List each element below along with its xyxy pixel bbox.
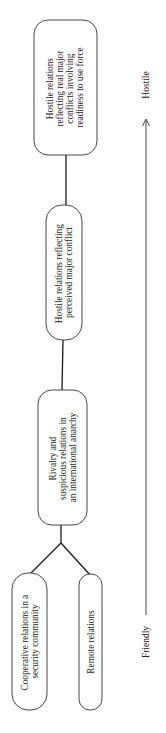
svg-text:Cooperative relations in a: Cooperative relations in a security comm… xyxy=(20,592,40,690)
edge-rivalry-to-cooperative xyxy=(31,543,61,573)
edge-perceived-to-rivalry xyxy=(62,340,63,390)
node-rivalry-line-3: an international anarchy xyxy=(68,412,78,502)
node-hostile-real: Hostile relations reflecting real major … xyxy=(34,20,97,155)
node-remote-line-1: Remote relations xyxy=(86,610,96,674)
friendly-hostile-axis: Hostile Friendly xyxy=(141,71,151,658)
node-cooperative: Cooperative relations in a security comm… xyxy=(12,573,47,710)
axis-label-hostile: Hostile xyxy=(141,71,151,98)
axis-label-friendly: Friendly xyxy=(141,626,151,658)
node-hostile-perceived-line-1: Hostile relations reflecting xyxy=(54,224,64,323)
node-cooperative-line-2: security community xyxy=(30,604,40,678)
node-rivalry: Rivalry and suspicious relations in an i… xyxy=(38,390,87,525)
node-hostile-real-line-3: conflicts involving xyxy=(65,53,75,123)
svg-text:Remote relations: Remote relations xyxy=(86,610,96,674)
node-rivalry-line-1: Rivalry and xyxy=(48,436,58,480)
svg-text:Hostile relations reflecting: Hostile relations reflecting perceived m… xyxy=(54,222,74,323)
node-hostile-real-line-4: readiness to use force xyxy=(75,47,85,127)
node-cooperative-line-1: Cooperative relations in a xyxy=(20,595,30,691)
node-hostile-real-line-2: reflecting real major xyxy=(55,50,65,127)
relations-spectrum-diagram: Hostile relations reflecting real major … xyxy=(0,0,166,733)
node-hostile-perceived-line-2: perceived major conflict xyxy=(64,227,74,318)
node-hostile-perceived: Hostile relations reflecting perceived m… xyxy=(46,205,82,340)
node-rivalry-line-2: suspicious relations in xyxy=(58,417,68,500)
node-hostile-real-line-1: Hostile relations xyxy=(45,58,55,120)
svg-text:Hostile relations reflec: Hostile relations reflecting real major … xyxy=(45,47,85,127)
edge-rivalry-to-remote xyxy=(61,543,91,576)
node-remote: Remote relations xyxy=(79,574,102,710)
